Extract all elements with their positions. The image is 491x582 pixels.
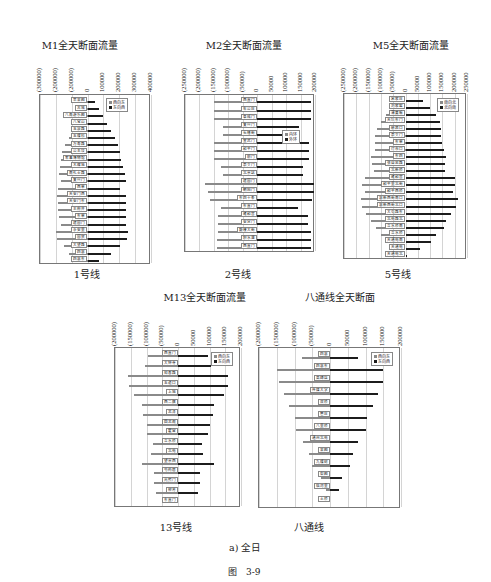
- legend: 西向东东向西: [371, 352, 393, 366]
- bar-positive: [178, 472, 200, 474]
- bar-positive: [88, 144, 119, 146]
- category-label: 永安里: [71, 227, 87, 233]
- category-label: 张自忠路: [385, 160, 405, 166]
- bar-positive: [178, 385, 228, 387]
- bar-positive: [88, 166, 124, 168]
- category-label: 西直门: [241, 243, 257, 249]
- bar-positive: [178, 453, 203, 455]
- bar-positive: [330, 357, 358, 359]
- category-label: 鼓楼大街: [237, 227, 257, 233]
- grid-line: [199, 95, 200, 251]
- bar-positive: [406, 121, 440, 123]
- category-label: 积水潭: [241, 235, 257, 241]
- bar-positive: [88, 209, 127, 211]
- category-label: 管庄: [318, 411, 330, 417]
- legend-swatch-icon: [440, 101, 443, 104]
- bar-negative: [284, 393, 330, 395]
- bar-positive: [257, 199, 312, 201]
- category-label: 北京站: [241, 170, 257, 176]
- legend-swatch-icon: [214, 360, 217, 363]
- x-tick-label: 300000: [130, 52, 137, 92]
- category-label: 八宝山: [71, 119, 87, 125]
- category-label: 西直门: [241, 97, 257, 103]
- bar-positive: [330, 453, 353, 455]
- grid-line: [295, 348, 296, 507]
- bar-positive: [257, 247, 310, 249]
- legend-swatch-icon: [214, 355, 217, 358]
- bar-positive: [257, 239, 310, 241]
- bar-positive: [257, 150, 309, 152]
- bar-positive: [88, 202, 126, 204]
- bar-positive: [406, 234, 437, 236]
- x-tick-label: 0: [83, 52, 90, 92]
- category-label: 朝阳门: [241, 187, 257, 193]
- category-label: 玉泉路: [71, 126, 87, 132]
- grid-line: [348, 348, 349, 507]
- bar-positive: [330, 441, 358, 443]
- chart-caption: 八通线: [294, 519, 324, 534]
- grid-line: [241, 348, 242, 506]
- bar-positive: [330, 417, 367, 419]
- grid-line: [277, 348, 278, 507]
- bar-positive: [178, 414, 213, 416]
- x-tick-label: (50000): [238, 52, 245, 92]
- plot-area: 四惠四惠东高碑店传媒大学双桥管庄八里桥通州北苑果园九棵树梨园临河里土桥: [258, 347, 400, 508]
- x-tick-label: (200000): [194, 52, 201, 92]
- category-label: 高碑店: [314, 375, 330, 381]
- x-tick-label: (200000): [110, 302, 117, 346]
- bar-positive: [406, 107, 431, 109]
- bar-positive: [406, 184, 455, 186]
- bar-positive: [257, 231, 310, 233]
- x-tick-label: 100000: [205, 302, 212, 346]
- grid-line: [185, 95, 186, 251]
- grid-line: [442, 94, 443, 258]
- grid-line: [210, 348, 211, 506]
- category-label: 军事博物馆: [63, 155, 87, 161]
- legend-item: 外环: [285, 137, 297, 142]
- bar-positive: [330, 429, 366, 431]
- x-tick-label: (50000): [388, 50, 395, 92]
- bar-positive: [406, 100, 423, 102]
- grid-line: [135, 95, 136, 263]
- category-label: 西直门: [162, 350, 178, 356]
- category-label: 龙泽: [166, 409, 178, 415]
- x-tick-label: (150000): [364, 50, 371, 92]
- bar-positive: [330, 393, 378, 395]
- category-label: 刘家窑: [389, 103, 405, 109]
- bar-positive: [88, 245, 121, 247]
- bar-positive: [406, 191, 454, 193]
- legend: 西向东东向西: [211, 352, 233, 366]
- x-tick-label: 200000: [450, 50, 457, 92]
- legend-label: 东向西: [378, 359, 390, 364]
- legend-swatch-icon: [285, 138, 288, 141]
- bar-negative: [279, 381, 330, 383]
- bar-positive: [88, 195, 126, 197]
- bar-positive: [178, 482, 200, 484]
- category-label: 霍营: [166, 428, 178, 434]
- bar-positive: [88, 173, 125, 175]
- bar-negative: [303, 441, 330, 443]
- bar-negative: [295, 417, 331, 419]
- x-tick-label: 0: [401, 50, 408, 92]
- bar-positive: [406, 206, 456, 208]
- category-label: 梨园: [318, 471, 330, 477]
- legend: 西向东东向西: [106, 98, 128, 112]
- bar-positive: [178, 355, 208, 357]
- legend-item: 北向南: [440, 105, 456, 110]
- category-label: 天坛东门: [385, 117, 405, 123]
- bar-positive: [88, 224, 126, 226]
- category-label: 通州北苑: [310, 435, 330, 441]
- bar-positive: [88, 238, 128, 240]
- grid-line: [259, 348, 260, 507]
- category-label: 惠新西街北口: [377, 202, 405, 208]
- category-label: 北新桥: [389, 167, 405, 173]
- bar-positive: [88, 180, 127, 182]
- grid-line: [147, 348, 148, 506]
- category-label: 苹果园: [71, 97, 87, 103]
- grid-line: [344, 94, 345, 258]
- bar-positive: [178, 394, 224, 396]
- legend: 内环外环: [282, 130, 300, 144]
- x-tick-label: (200000): [67, 52, 74, 92]
- category-label: 国贸: [75, 234, 87, 240]
- bar-positive: [406, 227, 444, 229]
